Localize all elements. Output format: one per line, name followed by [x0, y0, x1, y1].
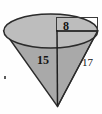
slant-height-label: 17: [82, 57, 93, 68]
height-label: 15: [37, 54, 49, 66]
radius-label: 8: [63, 20, 69, 32]
cone-diagram: 8 15 17: [0, 0, 102, 114]
scan-speck-artifact: [4, 76, 6, 79]
height-axis-segment: [57, 30, 58, 107]
